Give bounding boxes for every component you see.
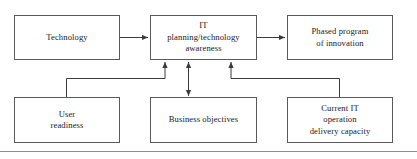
node-it-planning-line-1: IT	[153, 20, 254, 31]
node-user-readiness-line-1: User	[17, 109, 117, 120]
node-current-it-line-1: Current IT	[290, 103, 390, 114]
connector-user-readiness-to-it-planning	[67, 62, 166, 97]
diagram-figure: Technology IT planning/technology awaren…	[0, 0, 417, 159]
node-phased-program-line-2: of innovation	[290, 38, 390, 49]
node-user-readiness: User readiness	[14, 97, 120, 143]
node-technology: Technology	[14, 15, 120, 60]
node-phased-program-line-1: Phased program	[290, 26, 390, 37]
connector-current-it-to-it-planning	[231, 62, 340, 97]
node-current-it-line-3: delivery capacity	[290, 126, 390, 137]
node-user-readiness-line-2: readiness	[17, 120, 117, 131]
node-phased-program-of-innovation: Phased program of innovation	[287, 15, 393, 60]
node-it-planning-line-3: awareness	[153, 43, 254, 54]
node-it-planning-technology-awareness: IT planning/technology awareness	[150, 15, 257, 60]
node-current-it-line-2: operation	[290, 114, 390, 125]
figure-baseline-rule	[0, 151, 417, 152]
node-business-objectives-line-1: Business objectives	[153, 114, 254, 125]
node-current-it-operation-delivery-capacity: Current IT operation delivery capacity	[287, 97, 393, 143]
node-it-planning-line-2: planning/technology	[153, 32, 254, 43]
node-technology-line-1: Technology	[17, 32, 117, 43]
node-business-objectives: Business objectives	[150, 97, 257, 143]
